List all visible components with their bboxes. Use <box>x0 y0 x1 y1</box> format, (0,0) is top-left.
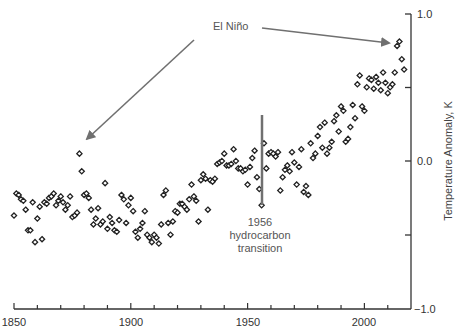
data-point <box>95 206 100 211</box>
x-tick-label-1950: 1950 <box>236 316 260 328</box>
data-point <box>371 86 376 91</box>
data-point <box>189 182 194 187</box>
el-nino-arrow-right <box>262 28 389 43</box>
data-point <box>292 160 297 165</box>
x-tick-label-1850: 1850 <box>2 316 26 328</box>
data-point <box>128 195 133 200</box>
transition-line2-label: transition <box>238 242 283 254</box>
data-point <box>322 120 327 125</box>
data-point <box>88 207 93 212</box>
data-point <box>222 151 227 156</box>
data-point <box>315 133 320 138</box>
data-point <box>296 164 301 169</box>
x-tick-label-1900: 1900 <box>119 316 143 328</box>
data-point <box>110 220 115 225</box>
data-point <box>294 182 299 187</box>
data-point <box>233 158 238 163</box>
data-point <box>138 226 143 231</box>
data-point <box>159 222 164 227</box>
data-point <box>303 183 308 188</box>
data-point <box>23 207 28 212</box>
x-tick-label-2000: 2000 <box>352 316 376 328</box>
data-point <box>247 164 252 169</box>
data-point <box>320 145 325 150</box>
x-axis: 1850 1900 1950 2000 <box>2 303 411 328</box>
data-point <box>105 226 110 231</box>
data-point <box>140 220 145 225</box>
data-point <box>91 222 96 227</box>
data-point <box>334 113 339 118</box>
data-point <box>299 147 304 152</box>
data-point <box>278 188 283 193</box>
data-point <box>93 216 98 221</box>
el-nino-arrow-left <box>87 40 194 139</box>
data-point <box>67 194 72 199</box>
data-point <box>35 216 40 221</box>
data-point <box>301 189 306 194</box>
data-point <box>135 235 140 240</box>
data-point <box>30 200 35 205</box>
data-point <box>378 88 383 93</box>
data-point <box>373 74 378 79</box>
data-point <box>124 220 129 225</box>
x-axis-ticks <box>14 303 388 309</box>
data-point <box>107 214 112 219</box>
data-point <box>77 151 82 156</box>
data-point <box>350 102 355 107</box>
data-point <box>355 82 360 87</box>
data-point <box>79 169 84 174</box>
data-point <box>289 150 294 155</box>
y-tick-label-zero: 0.0 <box>417 155 432 167</box>
data-point <box>402 67 407 72</box>
transition-year-label: 1956 <box>248 216 272 228</box>
data-point <box>264 166 269 171</box>
data-point <box>357 73 362 78</box>
data-point <box>376 80 381 85</box>
data-point <box>308 141 313 146</box>
data-point <box>324 151 329 156</box>
data-point <box>399 57 404 62</box>
data-point <box>156 241 161 246</box>
data-point <box>117 217 122 222</box>
el-nino-annotation: El Niño <box>87 20 389 139</box>
el-nino-label: El Niño <box>213 20 248 32</box>
data-point <box>254 175 259 180</box>
data-point <box>364 85 369 90</box>
hydrocarbon-transition-annotation: 1956 hydrocarbon transition <box>229 115 290 254</box>
data-point <box>317 124 322 129</box>
data-point <box>352 116 357 121</box>
transition-line1-label: hydrocarbon <box>229 229 290 241</box>
data-point <box>168 232 173 237</box>
data-point <box>39 237 44 242</box>
data-point <box>196 219 201 224</box>
data-point <box>103 181 108 186</box>
data-point <box>131 209 136 214</box>
data-point <box>385 91 390 96</box>
data-point <box>327 145 332 150</box>
data-point <box>392 70 397 75</box>
data-point <box>231 147 236 152</box>
data-point <box>32 240 37 245</box>
data-point <box>331 119 336 124</box>
y-axis-title: Temperature Anomaly, K <box>442 101 454 221</box>
data-point <box>383 80 388 85</box>
data-point <box>11 213 16 218</box>
y-tick-label-bottom: −1.0 <box>414 303 436 315</box>
data-point <box>126 203 131 208</box>
data-point <box>380 70 385 75</box>
y-tick-label-top: 1.0 <box>417 8 432 20</box>
data-point <box>252 148 257 153</box>
data-points <box>11 39 406 246</box>
data-point <box>336 129 341 134</box>
data-point <box>142 209 147 214</box>
temperature-anomaly-chart: 1850 1900 1950 2000 1.0 0.0 −1.0 Tempera… <box>0 0 464 333</box>
data-point <box>133 229 138 234</box>
data-point <box>250 155 255 160</box>
data-point <box>280 175 285 180</box>
data-point <box>306 192 311 197</box>
data-point <box>37 204 42 209</box>
data-point <box>245 182 250 187</box>
y-axis: 1.0 0.0 −1.0 Temperature Anomaly, K <box>405 8 454 315</box>
data-point <box>205 207 210 212</box>
data-point <box>329 139 334 144</box>
